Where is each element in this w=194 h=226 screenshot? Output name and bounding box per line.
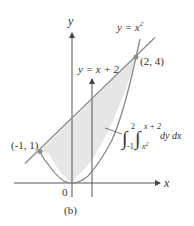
origin-label: 0 <box>62 186 68 198</box>
double-integral-expression: ∫ 2 -1 ∫ x + 2 x2 dy dx <box>120 122 182 151</box>
svg-text:dy dx: dy dx <box>160 130 182 141</box>
svg-text:∫: ∫ <box>133 127 142 151</box>
shaded-region-fill <box>40 57 136 183</box>
parabola-label: y = x2 <box>116 20 144 33</box>
y-axis-label: y <box>67 14 74 28</box>
svg-text:x + 2: x + 2 <box>143 122 161 131</box>
point-2-4 <box>134 55 139 60</box>
x-axis-label: x <box>163 176 170 190</box>
region-diagram: y x 0 y = x2 y = x + 2 (2, 4) (-1, 1) ∫ … <box>0 0 194 226</box>
line-label: y = x + 2 <box>77 63 120 75</box>
figure-caption: (b) <box>64 204 77 217</box>
svg-text:-1: -1 <box>127 142 134 151</box>
svg-text:x2: x2 <box>141 141 149 151</box>
point-label-2-4: (2, 4) <box>140 55 164 68</box>
point-label-neg1-1: (-1, 1) <box>11 139 39 152</box>
